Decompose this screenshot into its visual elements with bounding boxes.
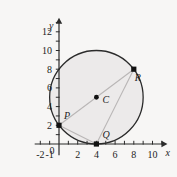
point-p-marker <box>56 123 61 128</box>
x-axis-name: x <box>164 147 170 158</box>
y-tick-label: 2 <box>47 120 52 131</box>
x-tick-label: 6 <box>113 149 118 160</box>
point-c-marker <box>94 95 99 100</box>
x-tick-label: 4 <box>94 149 99 160</box>
point-r-marker <box>131 67 136 72</box>
point-q-marker <box>94 141 99 146</box>
point-q-label: Q <box>102 129 110 140</box>
x-tick-label: -2 <box>36 149 44 160</box>
x-tick-label: 0 <box>50 145 55 156</box>
y-tick-label: 8 <box>47 64 52 75</box>
y-tick-label: 10 <box>42 45 52 56</box>
x-tick-label: 8 <box>131 149 136 160</box>
geometry-figure: -2-1024681024681012 PQRC x y <box>0 0 177 177</box>
y-tick-label: 6 <box>47 82 52 93</box>
point-p-label: P <box>63 110 70 121</box>
point-r-label: R <box>134 72 141 83</box>
coordinate-plane-svg: -2-1024681024681012 PQRC x y <box>0 0 177 177</box>
x-tick-label: 10 <box>148 149 158 160</box>
x-tick-label: 2 <box>75 149 80 160</box>
y-tick-label: 4 <box>47 101 52 112</box>
point-c-label: C <box>102 94 109 105</box>
y-axis-name: y <box>48 20 54 31</box>
